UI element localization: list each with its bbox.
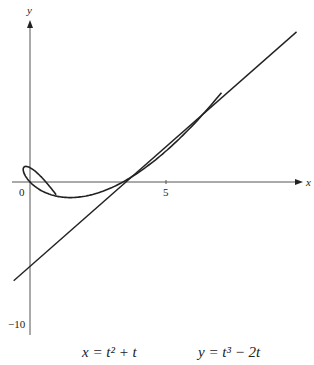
caption-y-equation: y = t³ − 2t (196, 344, 261, 360)
caption-y-text: y = t³ − 2t (196, 344, 261, 360)
x-tick-label-0: 0 (19, 186, 25, 198)
caption-x-equation: x = t² + t (81, 344, 138, 360)
x-axis-label: x (305, 176, 311, 188)
chart: x y 0 5 −10 x = t² + t y = t³ − 2t (0, 0, 314, 365)
tangent-line (14, 32, 297, 281)
y-axis-label: y (26, 4, 32, 16)
y-axis-arrow-icon (27, 20, 33, 28)
y-tick-label-neg10: −10 (8, 318, 26, 330)
x-axis-arrow-icon (295, 179, 303, 185)
caption-x-text: x = t² + t (81, 344, 138, 360)
x-tick-label-5: 5 (163, 186, 169, 198)
